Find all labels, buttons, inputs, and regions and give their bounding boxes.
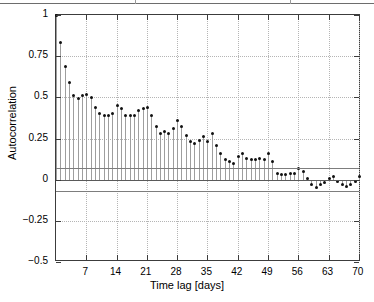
- data-point-marker: [68, 81, 71, 84]
- x-axis-tick-top: [238, 15, 239, 20]
- figure-canvas: Time lag [days] Autocorrelation −0.5−0.2…: [0, 0, 374, 302]
- data-point-marker: [237, 155, 240, 158]
- stem-line: [177, 120, 178, 179]
- data-point-marker: [276, 172, 279, 175]
- y-axis-tick-label: 0.75: [3, 50, 48, 60]
- stem-line: [134, 115, 135, 179]
- confidence-bound-lower: [56, 191, 359, 192]
- gridline-vertical: [268, 15, 269, 260]
- stem-line: [65, 66, 66, 180]
- y-axis-tick-label: 0.5: [3, 91, 48, 101]
- gridline-vertical: [207, 15, 208, 260]
- stem-line: [203, 137, 204, 180]
- stem-line: [194, 143, 195, 179]
- stem-line: [104, 115, 105, 179]
- x-axis-tick-top: [177, 15, 178, 20]
- data-point-marker: [323, 181, 326, 184]
- page-crop-tick-left: [135, 0, 136, 4]
- data-point-marker: [129, 114, 132, 117]
- data-point-marker: [163, 130, 166, 133]
- stem-line: [199, 140, 200, 180]
- stem-line: [264, 160, 265, 180]
- y-axis-tick-right: [354, 139, 359, 140]
- y-axis-tick-right: [354, 221, 359, 222]
- data-point-marker: [103, 114, 106, 117]
- data-point-marker: [341, 183, 344, 186]
- x-axis-tick-top: [147, 15, 148, 20]
- x-axis-tick-top: [268, 15, 269, 20]
- stem-line: [112, 114, 113, 180]
- y-axis-tick-label: −0.25: [3, 215, 48, 225]
- stem-line: [164, 132, 165, 180]
- gridline-vertical: [329, 15, 330, 260]
- y-axis-tick: [56, 139, 61, 140]
- y-axis-tick-right: [354, 262, 359, 263]
- data-point-marker: [159, 132, 162, 135]
- data-point-marker: [206, 140, 209, 143]
- y-axis-title: Autocorrelation: [6, 58, 18, 188]
- gridline-vertical: [298, 15, 299, 260]
- stem-line: [186, 135, 187, 179]
- data-point-marker: [146, 106, 149, 109]
- y-axis-tick-label: −0.5: [3, 256, 48, 266]
- x-axis-tick-top: [298, 15, 299, 20]
- data-point-marker: [241, 152, 244, 155]
- y-axis-tick: [56, 56, 61, 57]
- stem-line: [151, 115, 152, 179]
- data-point-marker: [302, 170, 305, 173]
- y-axis-tick: [56, 15, 61, 16]
- data-point-marker: [133, 114, 136, 117]
- data-point-marker: [250, 158, 253, 161]
- stem-line: [181, 127, 182, 180]
- gridline-vertical: [359, 15, 360, 260]
- data-point-marker: [150, 114, 153, 117]
- x-axis-tick-top: [86, 15, 87, 20]
- data-point-marker: [176, 119, 179, 122]
- y-axis-tick: [56, 180, 61, 181]
- stem-line: [73, 96, 74, 180]
- data-point-marker: [284, 173, 287, 176]
- x-axis-tick: [207, 255, 208, 260]
- stem-line: [251, 160, 252, 180]
- data-point-marker: [94, 106, 97, 109]
- stem-line: [82, 96, 83, 180]
- x-axis-tick: [147, 255, 148, 260]
- page-crop-tick-right: [290, 0, 291, 4]
- stem-line: [255, 160, 256, 180]
- data-point-marker: [271, 160, 274, 163]
- stem-line: [268, 153, 269, 179]
- data-point-marker: [358, 175, 361, 178]
- stem-line: [190, 142, 191, 180]
- stem-line: [173, 129, 174, 180]
- y-axis-tick-label: 0: [3, 174, 48, 184]
- data-point-marker: [267, 152, 270, 155]
- data-point-marker: [111, 112, 114, 115]
- y-axis-tick-label: 0.25: [3, 133, 48, 143]
- data-point-marker: [254, 158, 257, 161]
- page-crop-rule: [0, 3, 374, 4]
- data-point-marker: [228, 160, 231, 163]
- y-axis-tick-right: [354, 180, 359, 181]
- data-point-marker: [211, 132, 214, 135]
- y-axis-tick: [56, 97, 61, 98]
- x-axis-tick: [177, 255, 178, 260]
- stem-line: [99, 114, 100, 180]
- data-point-marker: [280, 173, 283, 176]
- data-point-marker: [219, 152, 222, 155]
- data-point-marker: [332, 175, 335, 178]
- stem-line: [207, 142, 208, 180]
- data-point-marker: [185, 134, 188, 137]
- stem-line: [242, 153, 243, 179]
- y-axis-tick-right: [354, 97, 359, 98]
- data-point-marker: [258, 157, 261, 160]
- y-axis-tick-label: 1: [3, 9, 48, 19]
- stem-line: [272, 162, 273, 180]
- x-axis-tick: [117, 255, 118, 260]
- stem-line: [298, 168, 299, 180]
- stem-line: [60, 43, 61, 180]
- x-axis-tick-top: [207, 15, 208, 20]
- x-axis-tick: [329, 255, 330, 260]
- data-point-marker: [172, 127, 175, 130]
- stem-line: [233, 163, 234, 179]
- data-point-marker: [319, 183, 322, 186]
